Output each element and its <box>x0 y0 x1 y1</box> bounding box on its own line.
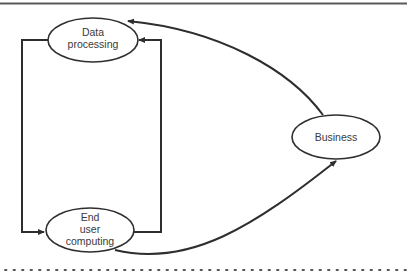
edge-end-user-to-business <box>115 161 336 254</box>
node-end-user-computing-label-3: computing <box>66 235 115 247</box>
edge-business-to-data-processing <box>128 21 323 115</box>
node-end-user-computing-label-1: End <box>81 211 100 223</box>
diagram-canvas: Data processing End user computing Busin… <box>0 0 407 279</box>
node-data-processing: Data processing <box>48 18 138 62</box>
node-business: Business <box>292 115 380 159</box>
node-data-processing-label-2: processing <box>68 38 119 50</box>
node-data-processing-label-1: Data <box>82 26 104 38</box>
node-business-label: Business <box>315 131 358 143</box>
edge-end-user-to-data-processing <box>134 40 161 232</box>
node-end-user-computing-label-2: user <box>80 223 101 235</box>
edge-data-processing-to-end-user <box>22 40 48 232</box>
node-end-user-computing: End user computing <box>46 208 134 252</box>
